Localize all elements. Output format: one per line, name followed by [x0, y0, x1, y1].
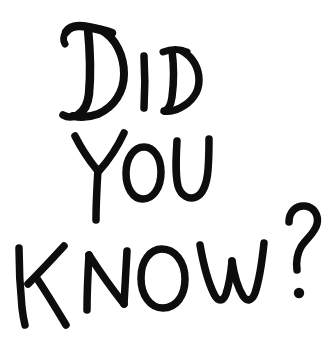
- glyph-i-small: [144, 56, 145, 108]
- question-mark-dot: [294, 288, 304, 298]
- handwriting-artwork: [0, 0, 336, 343]
- handwriting-canvas: DID YOU KNOW?: [0, 0, 336, 343]
